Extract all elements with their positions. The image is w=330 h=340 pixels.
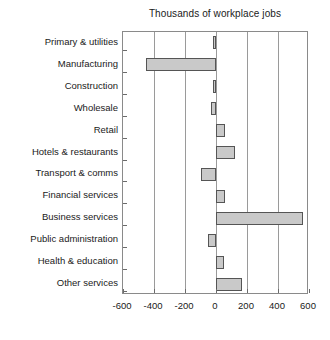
bar	[146, 58, 216, 71]
plot-area	[122, 31, 308, 294]
category-label: Manufacturing	[2, 58, 118, 69]
category-label: Transport & comms	[2, 167, 118, 178]
gridline	[247, 32, 248, 293]
category-label: Wholesale	[2, 102, 118, 113]
bar	[216, 278, 242, 291]
bar	[208, 234, 216, 247]
x-tick-label: 600	[300, 300, 316, 311]
category-tickmark	[123, 247, 127, 248]
tickmark	[309, 289, 310, 293]
bar	[216, 190, 225, 203]
category-label: Retail	[2, 124, 118, 135]
bar	[213, 36, 216, 49]
category-tickmark	[123, 94, 127, 95]
x-tick-label: -400	[143, 300, 162, 311]
bar	[216, 124, 225, 137]
x-axis-tick-labels: -600-400-2000200400600	[122, 300, 308, 314]
tickmark	[247, 289, 248, 293]
category-tickmark	[123, 72, 127, 73]
category-tickmark	[123, 181, 127, 182]
category-tickmark	[123, 269, 127, 270]
x-tick-label: 0	[212, 300, 217, 311]
gridline	[216, 32, 217, 293]
category-label: Health & education	[2, 255, 118, 266]
category-label: Public administration	[2, 233, 118, 244]
category-label: Financial services	[2, 189, 118, 200]
gridline	[278, 32, 279, 293]
bar	[216, 146, 235, 159]
category-tickmark	[123, 225, 127, 226]
bar	[211, 102, 216, 115]
bar	[201, 168, 217, 181]
tickmark	[154, 289, 155, 293]
category-label: Business services	[2, 211, 118, 222]
category-label: Other services	[2, 277, 118, 288]
bar	[213, 80, 216, 93]
category-tickmark	[123, 160, 127, 161]
category-tickmark	[123, 203, 127, 204]
x-tick-label: -200	[174, 300, 193, 311]
category-label: Hotels & restaurants	[2, 146, 118, 157]
category-tickmark	[123, 116, 127, 117]
category-tickmark	[123, 291, 127, 292]
tickmark	[185, 289, 186, 293]
chart-title: Thousands of workplace jobs	[122, 8, 308, 19]
tickmark	[278, 289, 279, 293]
bar	[216, 212, 303, 225]
bar	[216, 256, 224, 269]
workplace-jobs-bar-chart: Thousands of workplace jobs Primary & ut…	[0, 0, 330, 340]
category-axis-labels: Primary & utilitiesManufacturingConstruc…	[0, 31, 118, 294]
category-tickmark	[123, 50, 127, 51]
category-tickmark	[123, 138, 127, 139]
x-tick-label: -600	[112, 300, 131, 311]
x-tick-label: 200	[238, 300, 254, 311]
x-tick-label: 400	[269, 300, 285, 311]
category-label: Construction	[2, 80, 118, 91]
tickmark	[216, 289, 217, 293]
category-label: Primary & utilities	[2, 36, 118, 47]
